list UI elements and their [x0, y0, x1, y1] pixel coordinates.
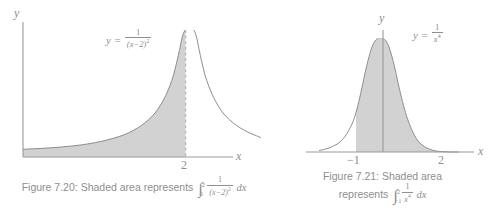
caption-line-2-figure-7-21: represents ∫2−1 1 x4 dx: [262, 183, 503, 204]
x-tick-label-2-figure-7-20: 2: [181, 158, 187, 173]
plot-figure-7-20: [0, 0, 262, 176]
figure-7-20: y x 2 y = 1 (x−2)2 Figure 7.20: Shaded a…: [0, 0, 262, 208]
integral-upper-limit: 2: [202, 183, 205, 188]
curve-right-branch-figure-7-20: [194, 30, 262, 138]
curve-left-tail-figure-7-21: [319, 113, 356, 151]
x-axis-label-figure-7-20: x: [236, 149, 241, 164]
caption-integrand-denominator-exponent: 2: [228, 186, 231, 192]
caption-integrand-denominator: (x−2)2: [207, 186, 232, 198]
caption-line-1-figure-7-21: Figure 7.21: Shaded area: [262, 170, 503, 183]
caption-differential-figure-7-21: dx: [416, 189, 426, 200]
x-axis-label-figure-7-21: x: [478, 144, 483, 159]
caption-integral-figure-7-21: ∫2−1 1 x4 dx: [391, 189, 426, 200]
caption-figure-7-20: Figure 7.20: Shaded area represents ∫20 …: [6, 176, 262, 197]
integral-lower-limit: 0: [200, 192, 203, 197]
caption-integrand-numerator: 1: [207, 176, 232, 186]
integral-sign-figure-7-21: ∫2−1: [393, 191, 397, 203]
integral-lower-limit-figure-7-21: −1: [395, 199, 402, 204]
y-axis-label-figure-7-20: y: [14, 6, 19, 21]
caption-integrand-denominator-figure-7-21: x4: [402, 193, 412, 205]
curve-equation-numerator: 1: [125, 28, 152, 38]
caption-integrand-denominator-base: (x−2): [209, 188, 228, 197]
curve-equation-label-figure-7-20: y = 1 (x−2)2: [106, 28, 152, 49]
caption-line-2-prefix-figure-7-21: represents: [339, 188, 389, 200]
caption-differential-figure-7-20: dx: [236, 182, 246, 193]
curve-equation-lhs: y =: [106, 34, 121, 46]
x-tick-label-minus-1-figure-7-21: −1: [347, 153, 360, 168]
caption-integrand-denominator-exponent-figure-7-21: 4: [408, 193, 411, 199]
curve-equation-denominator: (x−2)2: [125, 38, 152, 49]
x-tick-label-2-figure-7-21: 2: [438, 153, 444, 168]
curve-equation-denominator-exponent: 2: [146, 38, 149, 44]
caption-figure-7-21: Figure 7.21: Shaded area represents ∫2−1…: [262, 170, 503, 204]
shaded-region-figure-7-20: [23, 30, 185, 157]
caption-integral-figure-7-20: ∫20 1 (x−2)2 dx: [196, 182, 246, 193]
curve-equation-fraction-figure-7-21: 1 x4: [432, 23, 443, 44]
caption-text-figure-7-20: Figure 7.20: Shaded area represents: [22, 181, 194, 193]
curve-equation-denominator-exponent-figure-7-21: 4: [438, 33, 441, 39]
integral-sign-figure-7-20: ∫20: [198, 184, 202, 196]
curve-equation-denominator-base: (x−2): [127, 39, 147, 49]
integral-upper-limit-figure-7-21: 2: [397, 190, 400, 195]
shaded-region-figure-7-21: [356, 39, 456, 152]
caption-integrand-fraction-figure-7-21: 1 x4: [402, 183, 412, 204]
curve-equation-label-figure-7-21: y = 1 x4: [413, 23, 444, 44]
curve-equation-lhs-figure-7-21: y =: [413, 29, 428, 41]
curve-equation-fraction: 1 (x−2)2: [125, 28, 152, 49]
figure-7-21: y x −1 2 y = 1 x4 Figure 7.21: Shaded ar…: [262, 0, 503, 208]
curve-equation-denominator-figure-7-21: x4: [432, 33, 443, 44]
y-axis-label-figure-7-21: y: [379, 11, 384, 26]
caption-integrand-numerator-figure-7-21: 1: [402, 183, 412, 193]
caption-integrand-fraction: 1 (x−2)2: [207, 176, 232, 197]
curve-equation-numerator-figure-7-21: 1: [432, 23, 443, 33]
